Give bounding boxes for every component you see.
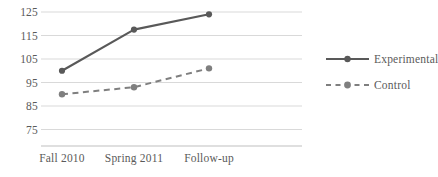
data-point-control-1 <box>131 84 137 90</box>
data-point-experimental-2 <box>206 11 212 17</box>
series-experimental <box>59 11 212 74</box>
data-point-experimental-0 <box>59 68 65 74</box>
legend-swatch-control <box>326 82 369 89</box>
data-point-control-0 <box>59 91 65 97</box>
data-point-control-2 <box>206 65 212 71</box>
gridlines <box>41 12 302 130</box>
legend-swatch-experimental <box>326 56 369 62</box>
data-point-experimental-1 <box>131 27 137 33</box>
series-control <box>59 65 212 97</box>
